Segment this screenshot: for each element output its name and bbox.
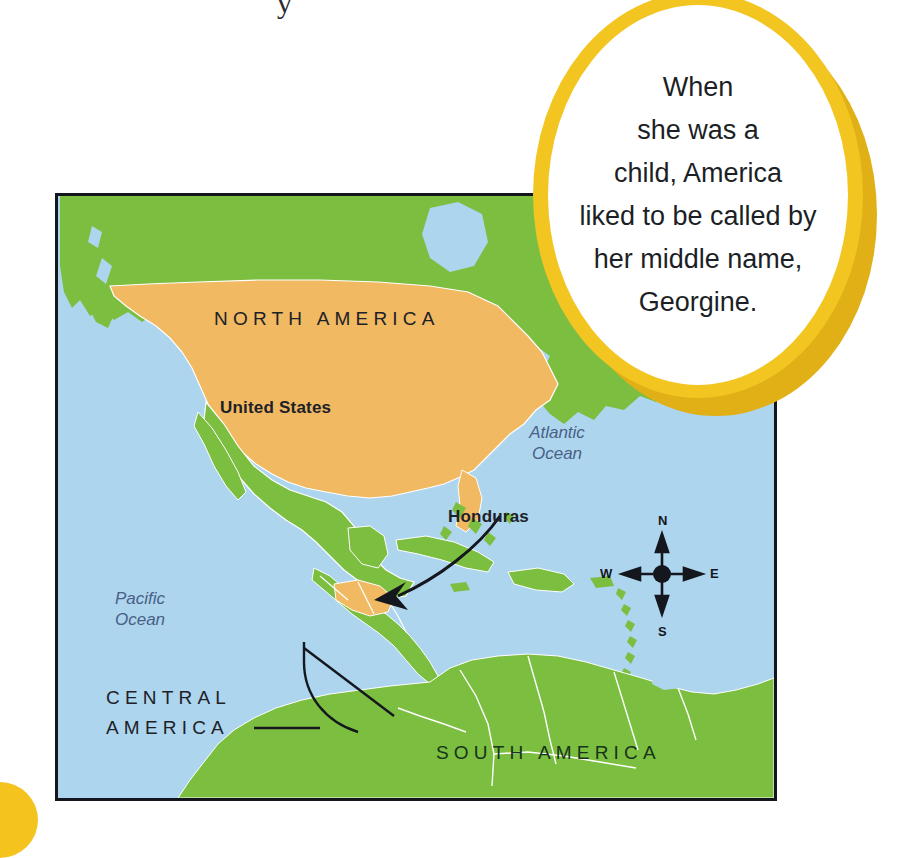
decorative-circle-marker xyxy=(0,782,38,858)
callout-outer-ring: When she was a child, America liked to b… xyxy=(533,0,863,398)
page-bleed-glyph: y xyxy=(277,0,292,20)
callout-text: When she was a child, America liked to b… xyxy=(575,66,820,324)
callout-bubble: When she was a child, America liked to b… xyxy=(533,0,879,422)
callout-inner-disc: When she was a child, America liked to b… xyxy=(548,5,848,385)
